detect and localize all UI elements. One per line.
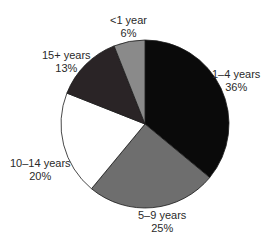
label-name: 1–4 years [212, 68, 260, 81]
label-15-plus-years: 15+ years 13% [42, 49, 91, 75]
label-under-1-year: <1 year 6% [110, 14, 147, 40]
label-pct: 13% [42, 62, 91, 75]
label-1-4-years: 1–4 years 36% [212, 68, 260, 94]
label-name: 5–9 years [138, 209, 186, 222]
label-pct: 25% [138, 222, 186, 235]
label-10-14-years: 10–14 years 20% [10, 157, 71, 183]
label-5-9-years: 5–9 years 25% [138, 209, 186, 235]
label-name: 15+ years [42, 49, 91, 62]
label-pct: 20% [10, 170, 71, 183]
label-pct: 36% [212, 81, 260, 94]
label-pct: 6% [110, 27, 147, 40]
label-name: <1 year [110, 14, 147, 27]
label-name: 10–14 years [10, 157, 71, 170]
